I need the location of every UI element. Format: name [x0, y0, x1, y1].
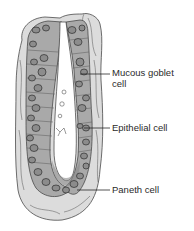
label-paneth-cell: Paneth cell [112, 184, 159, 195]
crypt-diagram: Intestinal crypt cross-section [0, 0, 194, 231]
label-epithelial-cell: Epithelial cell [112, 122, 167, 133]
crypt-illustration [0, 0, 194, 231]
label-mucous-goblet-cell: Mucous goblet cell [112, 67, 174, 89]
